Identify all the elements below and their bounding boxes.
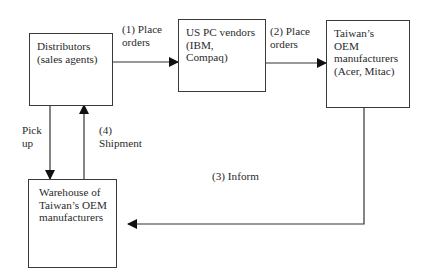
- node-distributors-label: Distributors (sales agents): [37, 40, 98, 65]
- node-us-pc-vendors-label: US PC vendors (IBM, Compaq): [186, 26, 255, 64]
- node-warehouse-label: Warehouse of Taiwan’s OEM manufacturers: [39, 186, 107, 224]
- arrow-inform: [128, 107, 364, 224]
- node-us-pc-vendors: US PC vendors (IBM, Compaq): [178, 19, 266, 92]
- edge-label-inform: (3) Inform: [212, 170, 259, 183]
- node-distributors: Distributors (sales agents): [29, 33, 113, 106]
- edge-label-shipment: (4) Shipment: [99, 124, 142, 149]
- node-warehouse: Warehouse of Taiwan’s OEM manufacturers: [28, 179, 117, 268]
- node-taiwan-oem-label: Taiwan’s OEM manufacturers (Acer, Mitac): [334, 27, 398, 77]
- node-taiwan-oem: Taiwan’s OEM manufacturers (Acer, Mitac): [326, 20, 410, 108]
- edge-label-place-orders-1: (1) Place orders: [122, 23, 162, 48]
- edge-label-place-orders-2: (2) Place orders: [270, 25, 310, 50]
- edge-label-pick-up: Pick up: [22, 124, 42, 149]
